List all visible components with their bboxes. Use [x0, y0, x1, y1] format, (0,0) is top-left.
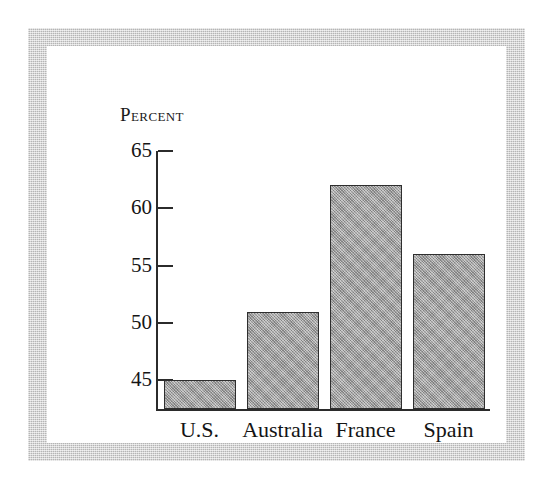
bar [247, 312, 319, 409]
decorative-frame-border: Percent 4550556065 U.S.AustraliaFranceSp… [28, 28, 525, 461]
bar [413, 254, 485, 409]
bar-series: U.S.AustraliaFranceSpain [47, 46, 506, 443]
plot-area: Percent 4550556065 U.S.AustraliaFranceSp… [47, 46, 506, 443]
chart-page: Percent 4550556065 U.S.AustraliaFranceSp… [0, 0, 550, 484]
bar [330, 185, 402, 409]
bar [164, 380, 236, 409]
x-axis-category-label: Spain [401, 416, 496, 444]
chart-canvas: Percent 4550556065 U.S.AustraliaFranceSp… [47, 46, 506, 443]
x-axis-category-label: Australia [235, 416, 330, 444]
x-axis-category-label: France [318, 416, 413, 444]
x-axis-category-label: U.S. [152, 416, 247, 444]
